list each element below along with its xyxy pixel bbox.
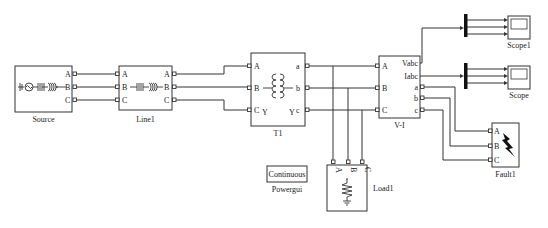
t1-out-port-a[interactable]	[306, 64, 310, 68]
t1-in-port-b[interactable]	[248, 86, 252, 90]
scope-screen-icon	[511, 69, 527, 79]
t1-out-b-label: b	[296, 84, 300, 93]
load1-port-c[interactable]	[361, 160, 365, 164]
vi-out-port-a[interactable]	[421, 85, 425, 89]
source-port-a[interactable]	[73, 72, 77, 76]
wire-line1-t1-a[interactable]	[176, 66, 247, 74]
load1-port-a[interactable]	[332, 160, 336, 164]
t1-out-c-label: c	[296, 106, 300, 115]
t1-out-a-label: a	[296, 62, 300, 71]
line1-out-b-label: B	[164, 83, 169, 92]
block-line1[interactable]: A B C A B C Line1	[116, 66, 177, 124]
load1-a-label: A	[334, 167, 343, 173]
block-vi-measurement[interactable]: A B C Vabc Iabc a b c V-I	[376, 56, 425, 130]
wire-vi-fault-b[interactable]	[424, 98, 488, 146]
source-port-a-label: A	[65, 70, 71, 79]
source-label: Source	[32, 115, 55, 124]
wire-vi-fault-c[interactable]	[424, 110, 488, 160]
demux1-bar[interactable]	[464, 14, 468, 37]
load1-b-label: B	[349, 167, 358, 172]
vi-in-b-label: B	[382, 84, 387, 93]
load1-label: Load1	[373, 184, 393, 193]
t1-in-port-c[interactable]	[248, 108, 252, 112]
vi-out-vabc-label: Vabc	[402, 59, 418, 68]
line1-out-port-b[interactable]	[173, 85, 177, 89]
load1-port-b[interactable]	[347, 160, 351, 164]
t1-in-c-label: C	[254, 106, 259, 115]
wire-vi-fault-a[interactable]	[424, 87, 488, 131]
t1-in-port-a[interactable]	[248, 64, 252, 68]
vi-in-port-c[interactable]	[376, 108, 380, 112]
source-port-c[interactable]	[73, 98, 77, 102]
fault1-label: Fault1	[495, 170, 515, 179]
block-load1[interactable]: A B C Load1	[327, 160, 393, 211]
line1-in-port-b[interactable]	[116, 85, 120, 89]
vi-out-b-label: b	[414, 94, 418, 103]
source-port-b-label: B	[65, 83, 70, 92]
vi-in-port-a[interactable]	[376, 64, 380, 68]
vi-out-port-c[interactable]	[421, 108, 425, 112]
t1-out-port-b[interactable]	[306, 86, 310, 90]
powergui-label: Powergui	[272, 185, 303, 194]
demux2-bar[interactable]	[464, 63, 468, 89]
block-powergui[interactable]: Continuous Powergui	[267, 166, 307, 194]
t1-primary-winding: Y	[262, 108, 268, 117]
line1-in-b-label: B	[122, 83, 127, 92]
t1-label: T1	[274, 129, 283, 138]
scope1-label: Scope1	[507, 41, 531, 50]
line1-in-port-a[interactable]	[116, 72, 120, 76]
line1-out-c-label: C	[164, 96, 169, 105]
t1-in-b-label: B	[254, 84, 259, 93]
fault1-c-label: C	[494, 156, 499, 165]
fault1-port-a[interactable]	[489, 129, 493, 133]
vi-in-a-label: A	[382, 62, 388, 71]
fault1-a-label: A	[494, 127, 500, 136]
source-port-b[interactable]	[73, 85, 77, 89]
t1-in-a-label: A	[254, 62, 260, 71]
line1-in-c-label: C	[122, 96, 127, 105]
block-t1[interactable]: A B C a b c Y Y T1	[248, 53, 310, 138]
block-scope[interactable]: Scope	[508, 66, 530, 100]
line1-in-a-label: A	[122, 70, 128, 79]
vi-in-port-b[interactable]	[376, 86, 380, 90]
simulink-canvas: A B C Source A B C A B C Line1	[0, 0, 548, 228]
line1-out-port-c[interactable]	[173, 98, 177, 102]
wire-vabc-demux1[interactable]	[420, 28, 460, 63]
scope1-screen-icon	[511, 19, 527, 29]
scope-label: Scope	[509, 91, 529, 100]
vi-label: V-I	[394, 121, 405, 130]
vi-out-c-label: c	[414, 106, 418, 115]
vi-in-c-label: C	[382, 106, 387, 115]
vi-out-a-label: a	[414, 83, 418, 92]
load1-c-label: C	[363, 167, 372, 172]
fault1-b-label: B	[494, 142, 499, 151]
vi-out-iabc-label: Iabc	[404, 72, 418, 81]
fault1-port-b[interactable]	[489, 144, 493, 148]
line1-label: Line1	[136, 115, 155, 124]
block-fault1[interactable]: A B C Fault1	[489, 123, 520, 179]
t1-out-port-c[interactable]	[306, 108, 310, 112]
fault1-port-c[interactable]	[489, 158, 493, 162]
t1-secondary-winding: Y	[289, 108, 295, 117]
block-source[interactable]: A B C Source	[15, 66, 77, 124]
powergui-mode: Continuous	[269, 170, 306, 179]
line1-out-port-a[interactable]	[173, 72, 177, 76]
wire-line1-t1-c[interactable]	[176, 100, 247, 110]
source-port-c-label: C	[65, 96, 70, 105]
block-scope1[interactable]: Scope1	[507, 16, 531, 50]
vi-out-port-b[interactable]	[421, 96, 425, 100]
line1-in-port-c[interactable]	[116, 98, 120, 102]
line1-out-a-label: A	[164, 70, 170, 79]
